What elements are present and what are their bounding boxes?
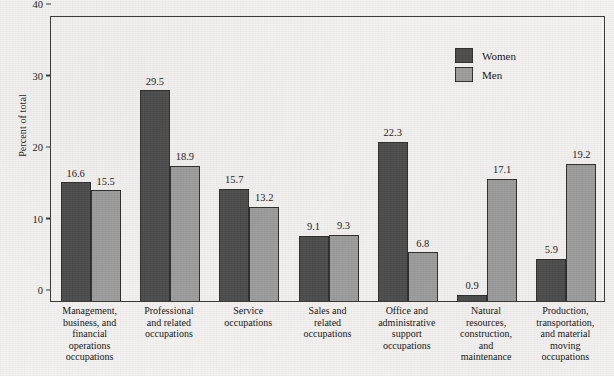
bar-group: 29.518.9 (140, 17, 200, 301)
x-category-label-line: and related (129, 317, 208, 329)
x-category-label-line: transportation, (526, 317, 605, 329)
bar-men[interactable] (170, 166, 200, 301)
bar-value-label: 17.1 (493, 165, 511, 176)
x-category-label: Serviceoccupations (209, 305, 288, 328)
bar-value-label: 16.6 (66, 169, 84, 180)
bar-women[interactable] (219, 189, 249, 301)
bar-women[interactable] (299, 236, 329, 301)
bar-men[interactable] (329, 235, 359, 301)
bar-value-label: 6.8 (416, 239, 429, 250)
x-category-label-line: resources, (446, 317, 525, 329)
legend-label: Women (482, 50, 516, 62)
x-category-label: Naturalresources,construction,andmainten… (446, 305, 525, 363)
x-category-label-line: and material (526, 328, 605, 340)
x-category-label-line: and (446, 340, 525, 352)
bar-men[interactable] (91, 190, 121, 301)
y-tick-label: 0 (38, 285, 46, 296)
y-tick-label: 10 (33, 213, 47, 224)
y-tick-mark (46, 3, 51, 4)
x-category-label: Sales andrelatedoccupations (288, 305, 367, 340)
x-category-label-line: occupations (367, 340, 446, 352)
bar-value-label: 29.5 (146, 77, 164, 88)
x-category-label-line: Professional (129, 305, 208, 317)
bar-group: 16.615.5 (61, 17, 121, 301)
x-category-label-line: financial (50, 328, 129, 340)
bar-group: 15.713.2 (219, 17, 279, 301)
bar-men[interactable] (566, 164, 596, 301)
x-category-label-line: moving (526, 340, 605, 352)
legend-label: Men (482, 69, 502, 81)
x-category-label-line: construction, (446, 328, 525, 340)
bar-value-label: 13.2 (255, 193, 273, 204)
legend-swatch-icon (455, 48, 473, 63)
x-category-label-line: Natural (446, 305, 525, 317)
y-tick: 40 (33, 0, 52, 10)
bar-group: 22.36.8 (378, 17, 438, 301)
bar-women[interactable] (140, 90, 170, 301)
bar-group: 9.19.3 (299, 17, 359, 301)
bar-men[interactable] (249, 207, 279, 301)
x-category-label-line: occupations (209, 317, 288, 329)
bar-value-label: 18.9 (176, 152, 194, 163)
x-category-label-line: Office and (367, 305, 446, 317)
y-tick-label: 20 (33, 142, 47, 153)
y-tick-label: 30 (33, 70, 47, 81)
x-category-label-line: administrative (367, 317, 446, 329)
bar-men[interactable] (408, 252, 438, 301)
bars-layer: 16.615.529.518.915.713.29.19.322.36.80.9… (51, 17, 604, 301)
x-category-label-line: occupations (526, 351, 605, 363)
x-category-label-line: Production, (526, 305, 605, 317)
x-axis-category-labels: Management,business, andfinancialoperati… (50, 305, 605, 375)
x-category-label-line: occupations (129, 328, 208, 340)
legend-item-men[interactable]: Men (455, 67, 516, 82)
y-tick: 20 (33, 142, 52, 153)
y-tick: 30 (33, 70, 52, 81)
bar-value-label: 5.9 (545, 245, 558, 256)
bar-women[interactable] (536, 259, 566, 301)
x-category-label: Production,transportation,and materialmo… (526, 305, 605, 363)
x-category-label-line: maintenance (446, 351, 525, 363)
y-tick: 0 (38, 285, 51, 296)
bar-women[interactable] (378, 142, 408, 301)
bar-value-label: 0.9 (466, 281, 479, 292)
x-category-label-line: related (288, 317, 367, 329)
x-category-label-line: Sales and (288, 305, 367, 317)
x-category-label-line: business, and (50, 317, 129, 329)
bar-value-label: 19.2 (572, 150, 590, 161)
x-category-label: Office andadministrativesupportoccupatio… (367, 305, 446, 351)
chart-legend: WomenMen (455, 48, 516, 82)
y-tick-label: 40 (33, 0, 47, 10)
legend-item-women[interactable]: Women (455, 48, 516, 63)
x-category-label-line: Management, (50, 305, 129, 317)
x-category-label: Professionaland relatedoccupations (129, 305, 208, 340)
bar-value-label: 15.7 (225, 175, 243, 186)
bar-women[interactable] (457, 295, 487, 301)
bar-group: 5.919.2 (536, 17, 596, 301)
bar-men[interactable] (487, 179, 517, 301)
bar-chart-figure: Percent of total 010203040 16.615.529.51… (0, 0, 614, 376)
x-category-label-line: support (367, 328, 446, 340)
x-category-label-line: occupations (288, 328, 367, 340)
x-category-label-line: operations (50, 340, 129, 352)
bar-value-label: 9.1 (307, 222, 320, 233)
y-axis-title: Percent of total (17, 66, 28, 186)
plot-area: 010203040 16.615.529.518.915.713.29.19.3… (50, 16, 605, 302)
y-tick: 10 (33, 213, 52, 224)
x-category-label: Management,business, andfinancialoperati… (50, 305, 129, 363)
x-category-label-line: occupations (50, 351, 129, 363)
bar-women[interactable] (61, 182, 91, 301)
legend-swatch-icon (455, 67, 473, 82)
bar-value-label: 15.5 (96, 177, 114, 188)
bar-value-label: 9.3 (337, 221, 350, 232)
x-category-label-line: Service (209, 305, 288, 317)
bar-value-label: 22.3 (384, 128, 402, 139)
